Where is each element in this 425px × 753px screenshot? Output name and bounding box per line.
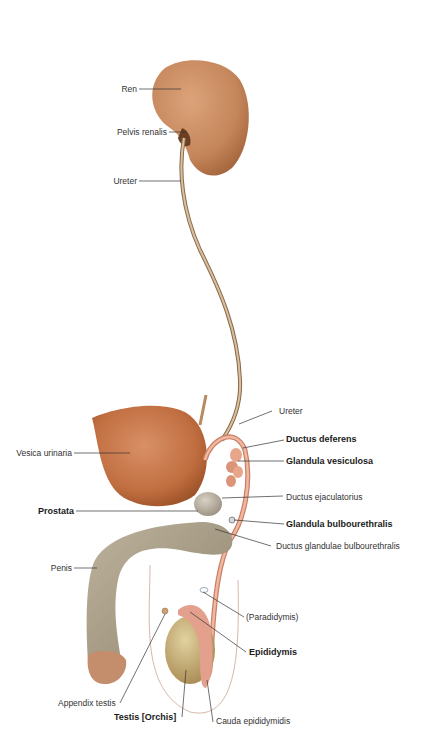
label-ductus-ejaculatorius: Ductus ejaculatorius [286, 492, 363, 502]
label-glandula-bulbourethralis: Glandula bulbourethralis [286, 519, 393, 529]
label-ureter-lower: Ureter [279, 406, 303, 416]
ureter [181, 138, 240, 440]
label-ductus-glandulae-bulbourethralis: Ductus glandulae bulbourethralis [276, 541, 400, 551]
label-prostata: Prostata [10, 506, 74, 516]
prostate [194, 492, 222, 516]
label-appendix-testis: Appendix testis [58, 698, 116, 708]
label-penis: Penis [30, 563, 72, 573]
seminal-vesicle [226, 448, 243, 487]
label-testis: Testis [Orchis] [114, 712, 176, 722]
label-ren: Ren [100, 84, 137, 94]
label-ductus-deferens: Ductus deferens [286, 434, 357, 444]
label-paradidymis: (Paradidymis) [246, 612, 298, 622]
label-vesica-urinaria: Vesica urinaria [0, 448, 72, 458]
label-ureter-upper: Ureter [100, 176, 137, 186]
label-pelvis-renalis: Pelvis renalis [80, 127, 167, 137]
anatomy-illustration [0, 0, 425, 753]
bladder [92, 406, 207, 506]
label-glandula-vesiculosa: Glandula vesiculosa [286, 456, 373, 466]
label-cauda-epididymidis: Cauda epididymidis [216, 716, 290, 726]
label-epididymis: Epididymis [249, 647, 297, 657]
kidney [152, 60, 249, 175]
